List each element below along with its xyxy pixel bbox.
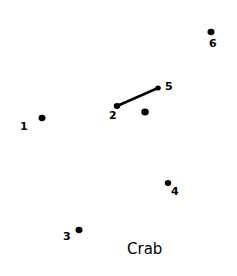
connecting-lines	[117, 88, 158, 106]
dot-1	[39, 115, 46, 121]
dot-label-3: 3	[63, 230, 71, 243]
connect-the-dots-diagram: 123456 Crab	[0, 0, 237, 276]
dot-3	[76, 227, 83, 233]
dot-label-4: 4	[171, 185, 179, 198]
dot-label-5: 5	[165, 80, 173, 93]
dot-6	[208, 29, 215, 35]
dot-label-6: 6	[209, 37, 217, 50]
dot-label-1: 1	[20, 120, 28, 133]
dot-label-2: 2	[109, 109, 117, 122]
dot-unlabeled	[141, 109, 149, 116]
line-2-to-5	[117, 88, 158, 106]
dots-layer: 123456	[20, 29, 217, 243]
diagram-title: Crab	[127, 240, 162, 258]
dot-5	[155, 85, 161, 90]
